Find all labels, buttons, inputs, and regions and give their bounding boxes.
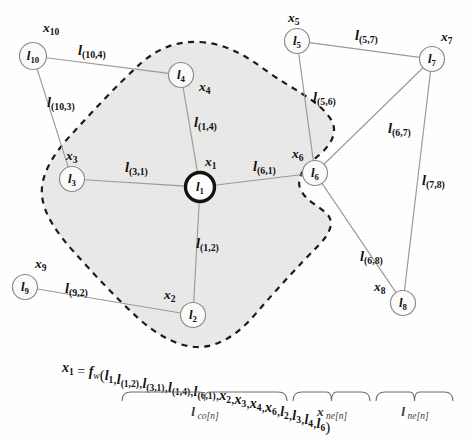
edge-n10-n3 — [37, 69, 68, 167]
state-label-x10: x10 — [42, 20, 60, 37]
diagram-canvas: l(10,4)l(10,3)l(3,1)l(1,4)l(1,2)l(6,1)l(… — [0, 0, 470, 438]
edge-label-57: l(5,7) — [355, 27, 378, 46]
l-ne-brace-label: l ne[n] — [401, 404, 429, 421]
l-ne-brace — [376, 392, 453, 401]
x-ne-brace-label: x ne[n] — [316, 404, 348, 421]
state-label-x8: x8 — [373, 279, 386, 296]
edge-label-92: l(9,2) — [65, 280, 88, 299]
edge-n6-n7 — [324, 68, 423, 165]
state-label-x9: x9 — [34, 256, 47, 273]
edge-label-78: l(7,8) — [422, 172, 445, 191]
edge-label-104: l(10,4) — [78, 42, 106, 61]
x-ne-brace — [293, 392, 370, 401]
state-label-x7: x7 — [440, 29, 453, 46]
edge-n6-n8 — [322, 183, 396, 292]
l-co-brace-label: l co[n] — [191, 404, 219, 421]
edge-label-103: l(10,3) — [47, 94, 75, 113]
edge-label-68: l(6,8) — [360, 248, 383, 267]
figure-root: l(10,4)l(10,3)l(3,1)l(1,4)l(1,2)l(6,1)l(… — [0, 0, 470, 438]
state-update-formula: x1 = fw(l1,l(1,2),l(3,1),l(1,4),l(6,1),x… — [61, 360, 330, 436]
edge-label-56: l(5,6) — [313, 89, 336, 108]
state-label-x5: x5 — [287, 10, 300, 27]
edge-label-67: l(6,7) — [388, 120, 411, 139]
